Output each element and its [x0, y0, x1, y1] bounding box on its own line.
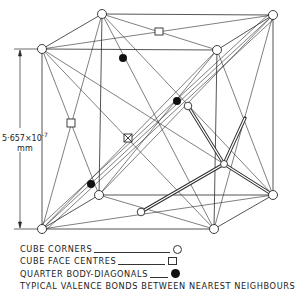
legend-item-cube-corners: CUBE CORNERS — [20, 243, 297, 255]
face-centre-atoms — [67, 28, 163, 142]
leader-line — [150, 270, 168, 278]
valence-bonds — [141, 106, 273, 212]
filled-circle-icon — [171, 269, 180, 278]
leader-line — [94, 245, 170, 253]
dimension-label: 5·657×10-7 mm — [2, 130, 48, 154]
leader-line — [118, 257, 165, 265]
legend-item-face-centres: CUBE FACE CENTRES — [20, 255, 297, 267]
legend: CUBE CORNERS CUBE FACE CENTRES QUARTER B… — [20, 243, 297, 292]
legend-item-quarter-diagonals: QUARTER BODY-DIAGONALS — [20, 268, 297, 280]
legend-item-valence-bonds: TYPICAL VALENCE BONDS BETWEEN NEAREST NE… — [20, 280, 297, 292]
open-circle-icon — [173, 245, 182, 254]
open-square-icon — [168, 257, 177, 265]
